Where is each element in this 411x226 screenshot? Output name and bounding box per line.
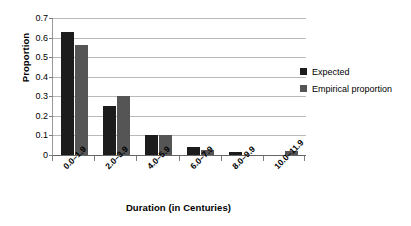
x-axis-tick-labels: 0.0–1.92.0–3.94.0–5.96.0–7.98.0–9.910.0–… bbox=[52, 160, 322, 200]
bars-layer bbox=[53, 18, 306, 155]
bar-chart-figure: Proportion 0.70.60.50.40.30.20.10 0.0–1.… bbox=[0, 0, 411, 226]
legend-item: Empirical proportion bbox=[300, 80, 410, 97]
bar-group bbox=[222, 18, 264, 155]
y-tick-label: 0.4 bbox=[18, 72, 48, 82]
chart-legend: ExpectedEmpirical proportion bbox=[300, 63, 410, 97]
plot-area bbox=[52, 18, 306, 156]
y-tick-label: 0.1 bbox=[18, 130, 48, 140]
y-axis-tick-labels: 0.70.60.50.40.30.20.10 bbox=[18, 12, 48, 156]
y-tick-label: 0 bbox=[18, 150, 48, 160]
y-tick-label: 0.3 bbox=[18, 91, 48, 101]
y-tick-label: 0.5 bbox=[18, 52, 48, 62]
legend-item: Expected bbox=[300, 63, 410, 80]
bar bbox=[75, 45, 88, 155]
legend-label: Empirical proportion bbox=[312, 84, 392, 94]
y-tick-label: 0.7 bbox=[18, 13, 48, 23]
bar-group bbox=[95, 18, 137, 155]
bar bbox=[103, 106, 116, 155]
y-tick-label: 0.2 bbox=[18, 111, 48, 121]
legend-label: Expected bbox=[312, 67, 350, 77]
x-axis-title: Duration (in Centuries) bbox=[52, 202, 305, 213]
bar-group bbox=[53, 18, 95, 155]
y-tick-label: 0.6 bbox=[18, 33, 48, 43]
bar-group bbox=[137, 18, 179, 155]
legend-swatch-icon bbox=[300, 68, 307, 75]
legend-swatch-icon bbox=[300, 85, 307, 92]
bar bbox=[61, 32, 74, 155]
bar-group bbox=[180, 18, 222, 155]
